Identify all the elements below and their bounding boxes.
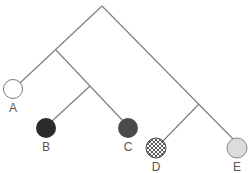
circle-e-icon [227, 138, 247, 158]
leaf-c: C [118, 118, 138, 154]
circle-a-icon [4, 80, 23, 99]
circle-d-icon [146, 138, 166, 158]
label-d: D [152, 160, 161, 173]
leaf-a: A [4, 80, 23, 116]
branch-to-d [162, 104, 199, 142]
branch-to-b [51, 86, 90, 122]
leaf-b: B [36, 118, 56, 154]
cladogram: A B C D E [0, 0, 248, 173]
label-a: A [9, 101, 17, 115]
circle-c-icon [118, 118, 138, 138]
circle-b-icon [36, 118, 56, 138]
leaf-d: D [146, 138, 166, 173]
leaf-e: E [227, 138, 247, 173]
label-c: C [124, 140, 133, 154]
branch-root-to-a [20, 6, 102, 83]
label-e: E [233, 160, 241, 173]
label-b: B [42, 140, 50, 154]
